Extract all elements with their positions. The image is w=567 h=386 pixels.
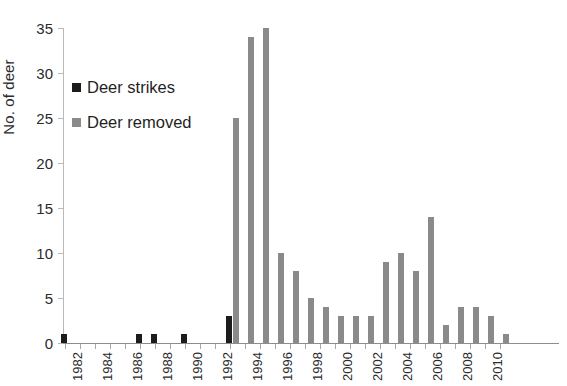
x-tick-label: 2000	[340, 352, 355, 381]
x-tick-mark	[80, 344, 81, 349]
bar-removed-1994	[248, 37, 254, 343]
y-tick-label: 15	[23, 200, 53, 217]
y-tick-label: 10	[23, 245, 53, 262]
legend-label-removed: Deer removed	[87, 113, 192, 132]
x-tick-mark	[455, 344, 456, 349]
x-tick-mark	[170, 344, 171, 349]
x-tick-mark	[110, 344, 111, 349]
x-tick-label: 1988	[160, 352, 175, 381]
bar-strikes-1993	[226, 316, 232, 343]
x-tick-mark	[485, 344, 486, 349]
bar-removed-2010	[488, 316, 494, 343]
legend-label-strikes: Deer strikes	[87, 78, 175, 97]
bar-removed-2008	[458, 307, 464, 343]
x-tick-mark	[500, 344, 501, 349]
x-tick-mark	[200, 344, 201, 349]
x-tick-label: 2010	[490, 352, 505, 381]
bar-removed-2006	[428, 217, 434, 343]
bar-removed-1996	[278, 253, 284, 343]
x-tick-mark	[95, 344, 96, 349]
x-tick-mark	[185, 344, 186, 349]
bar-removed-2002	[368, 316, 374, 343]
bar-removed-2007	[443, 325, 449, 343]
x-tick-mark	[275, 344, 276, 349]
bar-removed-2005	[413, 271, 419, 343]
y-tick-label: 25	[23, 110, 53, 127]
x-tick-label: 1984	[100, 352, 115, 381]
plot-area	[63, 28, 559, 343]
bar-removed-1999	[323, 307, 329, 343]
x-tick-mark	[350, 344, 351, 349]
y-tick-label: 0	[23, 335, 53, 352]
legend-swatch-icon-strikes	[72, 83, 81, 92]
bar-removed-1993	[233, 118, 239, 343]
bar-strikes-1982	[61, 334, 67, 343]
x-tick-mark	[425, 344, 426, 349]
bar-removed-2009	[473, 307, 479, 343]
bar-removed-2003	[383, 262, 389, 343]
x-tick-mark	[335, 344, 336, 349]
y-tick-label: 20	[23, 155, 53, 172]
bar-strikes-1990	[181, 334, 187, 343]
x-tick-mark	[140, 344, 141, 349]
x-tick-mark	[230, 344, 231, 349]
x-tick-label: 1994	[250, 352, 265, 381]
bar-removed-2000	[338, 316, 344, 343]
legend-swatch-icon-removed	[72, 118, 81, 127]
y-tick-mark	[58, 343, 63, 344]
deer-chart: No. of deer 05101520253035 1982198419861…	[0, 0, 567, 386]
x-tick-mark	[410, 344, 411, 349]
x-tick-mark	[380, 344, 381, 349]
x-tick-mark	[65, 344, 66, 349]
x-tick-mark	[125, 344, 126, 349]
x-tick-mark	[215, 344, 216, 349]
bar-removed-2011	[503, 334, 509, 343]
y-tick-label: 5	[23, 290, 53, 307]
x-tick-label: 1996	[280, 352, 295, 381]
legend-item-deer-strikes: Deer strikes	[72, 78, 192, 97]
bar-strikes-1987	[136, 334, 142, 343]
x-tick-mark	[365, 344, 366, 349]
x-tick-mark	[320, 344, 321, 349]
x-tick-label: 2006	[430, 352, 445, 381]
bar-removed-1995	[263, 28, 269, 343]
x-tick-label: 2002	[370, 352, 385, 381]
y-tick-label: 30	[23, 65, 53, 82]
bar-strikes-1988	[151, 334, 157, 343]
x-tick-mark	[305, 344, 306, 349]
x-tick-label: 1990	[190, 352, 205, 381]
x-tick-label: 1992	[220, 352, 235, 381]
x-tick-label: 2008	[460, 352, 475, 381]
bar-removed-1998	[308, 298, 314, 343]
x-tick-mark	[395, 344, 396, 349]
x-tick-label: 1986	[130, 352, 145, 381]
bar-removed-1997	[293, 271, 299, 343]
x-tick-mark	[245, 344, 246, 349]
x-tick-mark	[155, 344, 156, 349]
x-tick-label: 1982	[70, 352, 85, 381]
x-tick-mark	[290, 344, 291, 349]
x-tick-mark	[260, 344, 261, 349]
x-tick-mark	[470, 344, 471, 349]
chart-legend: Deer strikes Deer removed	[72, 78, 192, 148]
x-tick-mark	[440, 344, 441, 349]
x-tick-label: 2004	[400, 352, 415, 381]
y-axis-title: No. of deer	[0, 32, 22, 162]
bar-removed-2004	[398, 253, 404, 343]
y-tick-label: 35	[23, 20, 53, 37]
legend-item-deer-removed: Deer removed	[72, 113, 192, 132]
bar-removed-2001	[353, 316, 359, 343]
x-tick-label: 1998	[310, 352, 325, 381]
